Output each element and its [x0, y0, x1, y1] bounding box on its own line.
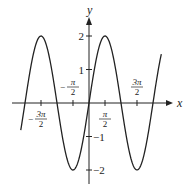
y-tick-label: 2 [79, 30, 85, 42]
x-tick-label: 3π2− [28, 109, 47, 129]
svg-text:3π: 3π [35, 109, 46, 119]
svg-text:−: − [28, 114, 33, 124]
y-axis-label: y [86, 3, 93, 17]
svg-text:−: − [60, 82, 65, 92]
x-axis-arrow-icon [166, 100, 173, 106]
svg-text:3π: 3π [131, 77, 142, 87]
svg-text:2: 2 [39, 119, 44, 129]
x-tick-label: π2 [99, 109, 111, 129]
svg-text:π: π [103, 109, 108, 119]
x-axis-label: x [176, 96, 183, 110]
y-tick-label: 1 [79, 64, 85, 76]
y-axis-arrow-icon [86, 17, 92, 25]
svg-text:2: 2 [103, 119, 108, 129]
y-tick-label: −2 [93, 164, 105, 176]
y-tick-label: −1 [93, 131, 105, 143]
tick-labels: xy3π2−π2−π23π221−1−2 [28, 3, 183, 176]
svg-text:2: 2 [71, 87, 76, 97]
svg-text:π: π [71, 77, 76, 87]
x-tick-label: π2− [60, 77, 79, 97]
x-tick-label: 3π2 [131, 77, 143, 97]
sine-graph: xy3π2−π2−π23π221−1−2 [0, 0, 186, 192]
svg-text:2: 2 [135, 87, 140, 97]
